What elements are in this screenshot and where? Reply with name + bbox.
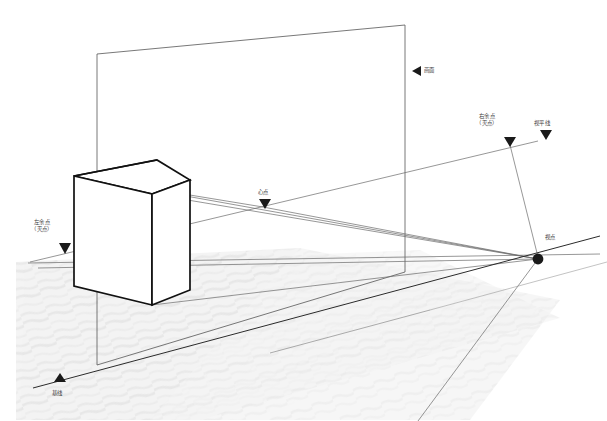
label-right-vanishing-point-line2: （灭点） <box>464 120 510 127</box>
label-right-vanishing-point: 右余点 （灭点） <box>464 113 510 127</box>
diagram-svg <box>0 0 607 421</box>
perspective-diagram-canvas: 画面 右余点 （灭点） 视平线 心点 左余点 （灭点） 视点 基线 <box>0 0 607 421</box>
label-right-vanishing-point-line1: 右余点 <box>464 113 510 120</box>
label-ground-line: 基线 <box>52 390 63 397</box>
ray-station-to-cube-front-top <box>152 194 538 259</box>
center-point-marker-icon <box>259 199 271 209</box>
right-vp-marker-icon <box>504 137 516 147</box>
label-horizon-line: 视平线 <box>534 120 550 127</box>
label-left-vanishing-point-line2: （灭点） <box>19 226 65 233</box>
label-left-vanishing-point: 左余点 （灭点） <box>19 219 65 233</box>
picture-plane-marker-icon <box>412 66 421 76</box>
cube-right-face <box>152 180 190 305</box>
label-center-point: 心点 <box>258 189 269 196</box>
label-left-vanishing-point-line1: 左余点 <box>19 219 65 226</box>
horizon-marker-icon <box>540 130 552 140</box>
ray-right-vp-to-station <box>510 145 538 257</box>
label-picture-plane: 画面 <box>424 67 435 74</box>
cube-left-face <box>74 176 152 305</box>
cube-group <box>74 160 190 305</box>
label-station-point: 视点 <box>545 234 556 241</box>
station-point-marker-icon <box>533 254 544 265</box>
